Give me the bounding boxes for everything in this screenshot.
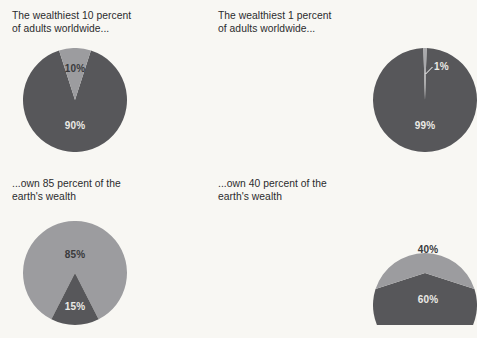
- panel-caption-bottom-left: ...own 85 percent of the earth's wealth: [12, 177, 162, 203]
- panel-caption-top-right: The wealthiest 1 percent of adults world…: [218, 9, 358, 35]
- pie-chart-own-40-percent: 40% 60%: [373, 221, 477, 325]
- panel-own-85-percent: ...own 85 percent of the earth's wealth …: [0, 169, 175, 338]
- pie-label-85-percent: 85%: [65, 249, 86, 260]
- panel-own-40-percent: ...own 40 percent of the earth's wealth …: [175, 169, 350, 338]
- panel-caption-bottom-right: ...own 40 percent of the earth's wealth: [218, 177, 358, 203]
- panel-wealthiest-1-percent: The wealthiest 1 percent of adults world…: [175, 0, 350, 169]
- pie-label-40-percent: 40%: [418, 244, 439, 255]
- pie-svg-top-right: 1% 99%: [373, 48, 477, 152]
- pie-chart-wealthiest-10-percent: 10% 90%: [23, 48, 127, 152]
- pie-label-99-percent: 99%: [415, 120, 436, 131]
- pie-label-10-percent: 10%: [65, 63, 86, 74]
- pie-svg-bottom-left: 85% 15%: [23, 221, 127, 325]
- pie-svg-bottom-right: 40% 60%: [373, 221, 477, 325]
- pie-label-15-percent: 15%: [65, 301, 86, 312]
- panel-wealthiest-10-percent: The wealthiest 10 percent of adults worl…: [0, 0, 175, 169]
- pie-chart-wealthiest-1-percent: 1% 99%: [373, 48, 477, 152]
- panel-caption-top-left: The wealthiest 10 percent of adults worl…: [12, 9, 162, 35]
- pie-label-60-percent: 60%: [418, 294, 439, 305]
- pie-svg-top-left: 10% 90%: [23, 48, 127, 152]
- pie-label-90-percent: 90%: [65, 120, 86, 131]
- pie-chart-own-85-percent: 85% 15%: [23, 221, 127, 325]
- pie-label-1-percent: 1%: [434, 61, 449, 72]
